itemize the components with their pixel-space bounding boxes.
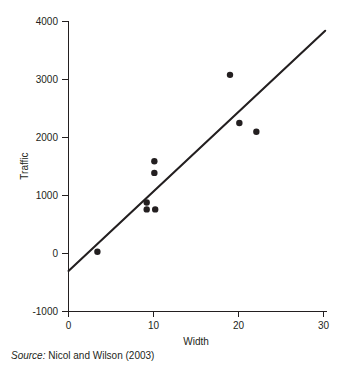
x-tick-label-20: 20 — [233, 320, 245, 331]
y-axis-ticks — [62, 22, 68, 312]
x-tick-label-10: 10 — [148, 320, 160, 331]
data-point — [151, 170, 157, 176]
data-point — [236, 120, 242, 126]
x-tick-label-0: 0 — [66, 320, 72, 331]
data-point — [227, 72, 233, 78]
data-point — [152, 206, 158, 212]
y-axis-title: Traffic — [19, 152, 30, 179]
y-tick-label-2000: 2000 — [36, 132, 59, 143]
y-tick-label-4000: 4000 — [36, 16, 59, 27]
source-reference: Nicol and Wilson (2003) — [45, 350, 154, 361]
data-point — [144, 199, 150, 205]
scatter-plot-figure: 4000 3000 2000 1000 0 -1000 0 10 20 30 T… — [0, 0, 356, 374]
x-axis-title: Width — [183, 336, 209, 347]
data-point — [94, 249, 100, 255]
y-tick-label-neg1000: -1000 — [32, 306, 58, 317]
source-label: Source: — [11, 350, 45, 361]
data-point — [144, 206, 150, 212]
x-tick-label-30: 30 — [318, 320, 330, 331]
data-point — [253, 129, 259, 135]
data-points-group — [94, 72, 259, 255]
y-tick-label-1000: 1000 — [36, 190, 59, 201]
y-tick-label-3000: 3000 — [36, 74, 59, 85]
chart-canvas: 4000 3000 2000 1000 0 -1000 0 10 20 30 T… — [0, 0, 356, 374]
regression-trend-line — [69, 31, 326, 271]
data-point — [151, 158, 157, 164]
source-caption: Source: Nicol and Wilson (2003) — [11, 350, 154, 361]
y-tick-label-0: 0 — [52, 248, 58, 259]
